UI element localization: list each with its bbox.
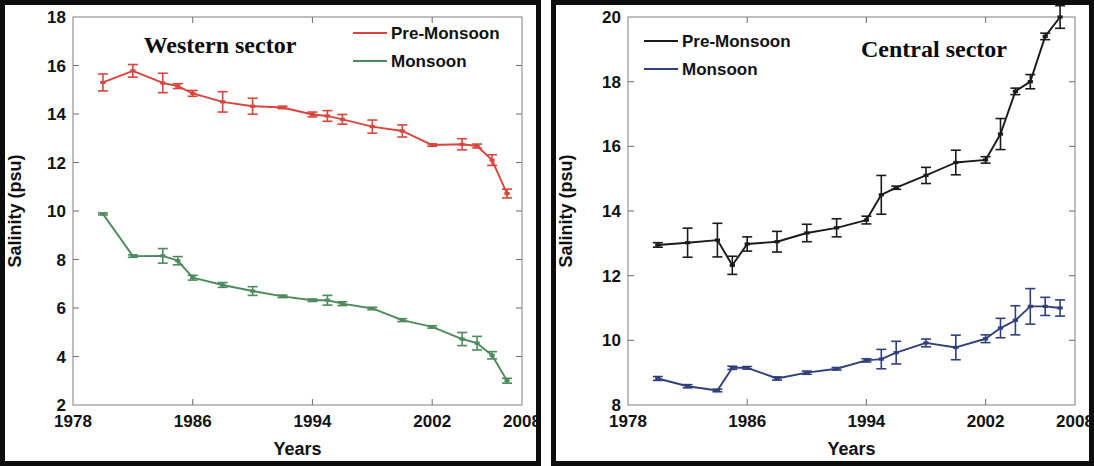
legend-label-0: Pre-Monsoon xyxy=(682,32,791,51)
y-tick-label: 12 xyxy=(602,267,621,286)
data-point xyxy=(1013,319,1018,322)
figure-container: 1978198619942002200824681012141618YearsS… xyxy=(0,0,1094,466)
data-point xyxy=(175,85,180,88)
data-point xyxy=(430,143,435,146)
data-point xyxy=(774,240,779,243)
legend-label-0: Pre-Monsoon xyxy=(391,24,500,43)
data-point xyxy=(250,289,255,292)
chart-panel-central: 197819861994200220088101214161820YearsSa… xyxy=(551,0,1094,466)
data-point xyxy=(894,351,899,354)
data-point xyxy=(340,118,345,121)
data-point xyxy=(1043,35,1048,38)
x-tick-label: 2002 xyxy=(413,412,451,431)
x-tick-label: 2008 xyxy=(503,412,536,431)
data-point xyxy=(998,326,1003,329)
data-point xyxy=(923,341,928,344)
data-point xyxy=(1013,90,1018,93)
data-point xyxy=(190,276,195,279)
data-point xyxy=(983,337,988,340)
data-point xyxy=(953,346,958,349)
data-point xyxy=(953,161,958,164)
legend-label-1: Monsoon xyxy=(682,60,758,79)
data-point xyxy=(430,325,435,328)
panel-title: Central sector xyxy=(861,36,1007,62)
data-point xyxy=(100,81,105,84)
y-tick-label: 14 xyxy=(602,202,621,221)
data-point xyxy=(325,114,330,117)
data-point xyxy=(745,366,750,369)
y-tick-label: 8 xyxy=(612,396,621,415)
x-tick-label: 1986 xyxy=(174,412,212,431)
y-tick-label: 18 xyxy=(602,73,621,92)
data-point xyxy=(804,231,809,234)
panel-divider xyxy=(541,0,551,466)
plot-frame xyxy=(73,17,522,405)
data-point xyxy=(715,389,720,392)
data-point xyxy=(1043,305,1048,308)
data-point xyxy=(475,342,480,345)
data-point xyxy=(460,337,465,340)
y-tick-label: 6 xyxy=(57,299,66,318)
data-point xyxy=(280,106,285,109)
data-point xyxy=(685,385,690,388)
y-tick-label: 18 xyxy=(47,8,66,27)
data-point xyxy=(1058,306,1063,309)
y-tick-label: 10 xyxy=(602,331,621,350)
data-point xyxy=(998,132,1003,135)
data-point xyxy=(745,242,750,245)
data-point xyxy=(864,359,869,362)
data-point xyxy=(730,366,735,369)
data-point xyxy=(130,255,135,258)
y-tick-label: 16 xyxy=(602,137,621,156)
data-point xyxy=(475,144,480,147)
data-point xyxy=(460,143,465,146)
y-tick-label: 20 xyxy=(602,8,621,27)
data-point xyxy=(1028,305,1033,308)
x-axis-label: Years xyxy=(827,439,875,459)
x-tick-label: 2008 xyxy=(1056,412,1089,431)
y-tick-label: 4 xyxy=(57,348,67,367)
data-point xyxy=(655,377,660,380)
x-tick-label: 1994 xyxy=(294,412,332,431)
y-axis-label: Salinity (psu) xyxy=(5,154,25,267)
central-sector-plot: 197819861994200220088101214161820YearsSa… xyxy=(556,5,1089,461)
y-tick-label: 2 xyxy=(57,396,66,415)
data-point xyxy=(730,264,735,267)
data-point xyxy=(310,113,315,116)
y-tick-label: 14 xyxy=(47,105,66,124)
data-point xyxy=(370,307,375,310)
data-point xyxy=(370,125,375,128)
data-point xyxy=(983,158,988,161)
x-tick-label: 1986 xyxy=(728,412,766,431)
data-point xyxy=(834,226,839,229)
panel-title: Western sector xyxy=(144,32,297,58)
legend-label-1: Monsoon xyxy=(391,52,467,71)
x-axis-label: Years xyxy=(273,439,321,459)
data-point xyxy=(250,105,255,108)
data-point xyxy=(894,186,899,189)
data-point xyxy=(804,371,809,374)
data-point xyxy=(489,158,494,161)
data-point xyxy=(340,302,345,305)
x-tick-label: 1994 xyxy=(847,412,885,431)
data-point xyxy=(130,69,135,72)
data-point xyxy=(923,174,928,177)
y-tick-label: 8 xyxy=(57,251,66,270)
data-point xyxy=(685,241,690,244)
x-tick-label: 2002 xyxy=(967,412,1005,431)
data-point xyxy=(160,81,165,84)
data-point xyxy=(190,92,195,95)
data-point xyxy=(715,239,720,242)
y-tick-label: 12 xyxy=(47,154,66,173)
data-point xyxy=(280,295,285,298)
data-point xyxy=(655,243,660,246)
data-point xyxy=(774,377,779,380)
y-axis-label: Salinity (psu) xyxy=(556,154,576,267)
data-point xyxy=(220,283,225,286)
data-point xyxy=(879,357,884,360)
data-point xyxy=(160,254,165,257)
y-tick-label: 16 xyxy=(47,57,66,76)
data-point xyxy=(400,129,405,132)
data-point xyxy=(100,212,105,215)
data-point xyxy=(400,319,405,322)
